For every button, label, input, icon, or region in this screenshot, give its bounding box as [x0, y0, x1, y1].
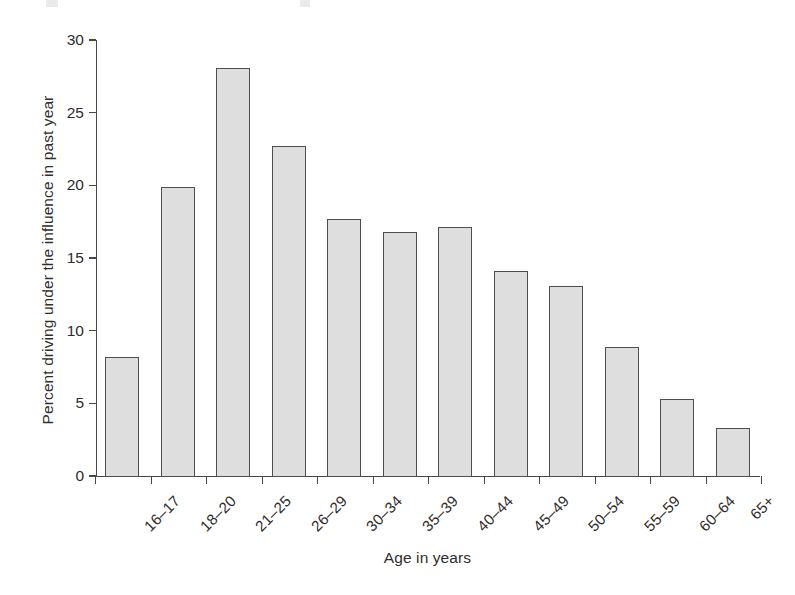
- x-tick-label: 55–59: [640, 492, 683, 535]
- bar: [272, 146, 306, 477]
- x-tick-9: [595, 476, 596, 484]
- y-tick-label-wrap-10: 10: [46, 323, 84, 339]
- bar: [605, 347, 639, 477]
- x-tick-end: [761, 476, 762, 484]
- x-tick-label: 45–49: [529, 492, 572, 535]
- y-tick-label: 5: [50, 395, 84, 411]
- x-tick-2: [206, 476, 207, 484]
- y-tick-20: [89, 185, 96, 186]
- x-tick-8: [539, 476, 540, 484]
- y-tick-label-wrap-15: 15: [46, 250, 84, 266]
- y-tick-30: [89, 39, 96, 40]
- x-tick-label: 30–34: [363, 492, 406, 535]
- y-tick-label-wrap-20: 20: [46, 177, 84, 193]
- y-tick-5: [89, 403, 96, 404]
- bar: [105, 357, 139, 477]
- y-tick-label: 30: [50, 32, 84, 48]
- y-tick-label-wrap-25: 25: [46, 105, 84, 121]
- bar: [383, 232, 417, 477]
- y-tick-label: 0: [50, 468, 84, 484]
- y-tick-label: 25: [50, 105, 84, 121]
- x-tick-10: [650, 476, 651, 484]
- x-tick-label: 21–25: [252, 492, 295, 535]
- y-tick-10: [89, 330, 96, 331]
- bar: [161, 187, 195, 477]
- x-tick-7: [484, 476, 485, 484]
- x-tick-1: [151, 476, 152, 484]
- y-tick-label: 15: [50, 250, 84, 266]
- x-tick-5: [373, 476, 374, 484]
- x-tick-4: [317, 476, 318, 484]
- bar: [216, 68, 250, 477]
- bar: [494, 271, 528, 477]
- y-tick-label-wrap-5: 5: [46, 395, 84, 411]
- y-tick-label-wrap-0: 0: [46, 468, 84, 484]
- x-tick-label: 16–17: [141, 492, 184, 535]
- bar: [327, 219, 361, 477]
- bar-chart-figure: Percent driving under the influence in p…: [0, 0, 795, 595]
- x-tick-6: [428, 476, 429, 484]
- x-tick-11: [706, 476, 707, 484]
- y-tick-label: 10: [50, 323, 84, 339]
- x-tick-label: 40–44: [474, 492, 517, 535]
- y-tick-label: 20: [50, 177, 84, 193]
- y-tick-15: [89, 257, 96, 258]
- x-tick-label: 26–29: [307, 492, 350, 535]
- bar: [438, 227, 472, 477]
- x-tick-label: 18–20: [196, 492, 239, 535]
- bar: [716, 428, 750, 477]
- x-tick-3: [262, 476, 263, 484]
- x-tick-label: 60–64: [696, 492, 739, 535]
- y-tick-label-wrap-30: 30: [46, 32, 84, 48]
- y-tick-25: [89, 112, 96, 113]
- bar: [549, 286, 583, 477]
- x-tick-label: 50–54: [585, 492, 628, 535]
- x-tick-0: [95, 476, 96, 484]
- plot-area: 051015202530 16–1718–2021–2526–2930–3435…: [0, 0, 795, 595]
- x-tick-label: 35–39: [418, 492, 461, 535]
- bar: [660, 399, 694, 477]
- y-axis-line: [96, 40, 97, 477]
- x-tick-label: 65+: [746, 492, 777, 523]
